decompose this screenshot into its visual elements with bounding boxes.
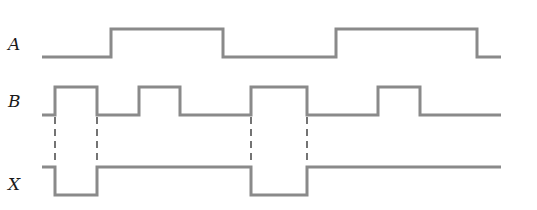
signal-label-a: A [6,34,20,54]
timing-diagram: A B X [0,0,537,210]
signal-label-b: B [7,91,21,111]
signal-b: B [7,87,501,115]
waveform-b [42,87,501,115]
signal-label-x: X [6,174,21,194]
waveform-x [42,167,501,195]
signal-x: X [6,167,501,195]
signal-a: A [6,29,501,57]
waveform-a [42,29,501,57]
dashed-guides [55,117,307,165]
